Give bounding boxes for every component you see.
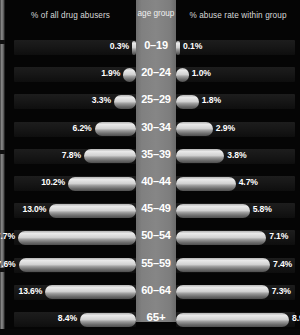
bar-right (176, 149, 224, 163)
drug-abuse-age-chart: % of all drug abusers % abuse rate withi… (0, 0, 300, 335)
bar-right (176, 122, 213, 136)
table-row: 0.3%0.1%0–19 (5, 37, 300, 61)
value-label-left: 13.6% (18, 286, 42, 296)
value-label-left: 7.8% (62, 150, 81, 160)
age-group-label: 50–54 (136, 229, 176, 241)
value-label-right: 7.1% (269, 231, 288, 241)
bar-left (19, 258, 136, 272)
value-label-right: 7.4% (273, 259, 292, 269)
age-group-label: 25–29 (136, 93, 176, 105)
bar-right (176, 41, 180, 55)
chart-rows: 0.3%0.1%0–191.9%1.0%20–243.3%1.8%25–296.… (5, 29, 300, 329)
table-row: 7.8%3.8%35–39 (5, 146, 300, 170)
age-group-label: 45–49 (136, 202, 176, 214)
value-label-left: 0.3% (110, 41, 129, 51)
value-label-right: 1.8% (202, 95, 221, 105)
age-group-label: 30–34 (136, 121, 176, 133)
value-label-right: 8.9% (292, 313, 300, 323)
value-label-right: 0.1% (183, 41, 202, 51)
value-label-right: 3.8% (227, 150, 246, 160)
bar-left (49, 204, 136, 218)
header-left-label: % of all drug abusers (5, 11, 136, 20)
value-label-left: 17.7% (0, 231, 15, 241)
bar-right (176, 95, 199, 109)
bar-left (123, 68, 136, 82)
bar-left (18, 231, 136, 245)
bar-right (176, 231, 266, 245)
value-label-left: 8.4% (58, 313, 77, 323)
value-label-right: 5.8% (253, 204, 272, 214)
bar-right (176, 68, 189, 82)
bar-left (84, 149, 136, 163)
table-row: 13.0%5.8%45–49 (5, 200, 300, 224)
bar-left (80, 313, 136, 327)
bar-right (176, 313, 289, 327)
age-group-label: 65+ (136, 311, 176, 323)
bar-right (176, 258, 270, 272)
bar-left (114, 95, 136, 109)
table-row: 17.7%7.1%50–54 (5, 227, 300, 251)
bar-left (45, 285, 136, 299)
age-group-label: 20–24 (136, 66, 176, 78)
bar-left (68, 177, 136, 191)
chart-inner: % of all drug abusers % abuse rate withi… (5, 0, 300, 335)
bar-left (95, 122, 136, 136)
table-row: 6.2%2.9%30–34 (5, 119, 300, 143)
header-center-label: age group (136, 9, 176, 18)
age-group-label: 60–64 (136, 284, 176, 296)
header-right-label: % abuse rate within group (176, 11, 300, 20)
value-label-left: 17.6% (0, 259, 16, 269)
bar-right (176, 204, 250, 218)
value-label-right: 7.3% (272, 286, 291, 296)
value-label-right: 1.0% (192, 68, 211, 78)
bar-right (176, 177, 236, 191)
age-group-label: 35–39 (136, 148, 176, 160)
value-label-left: 1.9% (101, 68, 120, 78)
table-row: 13.6%7.3%60–64 (5, 282, 300, 306)
bottom-padding (0, 329, 300, 335)
age-group-label: 40–44 (136, 175, 176, 187)
value-label-right: 2.9% (216, 123, 235, 133)
value-label-right: 4.7% (239, 177, 258, 187)
age-group-label: 55–59 (136, 257, 176, 269)
table-row: 3.3%1.8%25–29 (5, 91, 300, 115)
table-row: 1.9%1.0%20–24 (5, 64, 300, 88)
age-group-label: 0–19 (136, 39, 176, 51)
table-row: 10.2%4.7%40–44 (5, 173, 300, 197)
bar-right (176, 285, 269, 299)
value-label-left: 6.2% (72, 123, 91, 133)
value-label-left: 3.3% (92, 95, 111, 105)
value-label-left: 13.0% (22, 204, 46, 214)
table-row: 17.6%7.4%55–59 (5, 255, 300, 279)
value-label-left: 10.2% (41, 177, 65, 187)
